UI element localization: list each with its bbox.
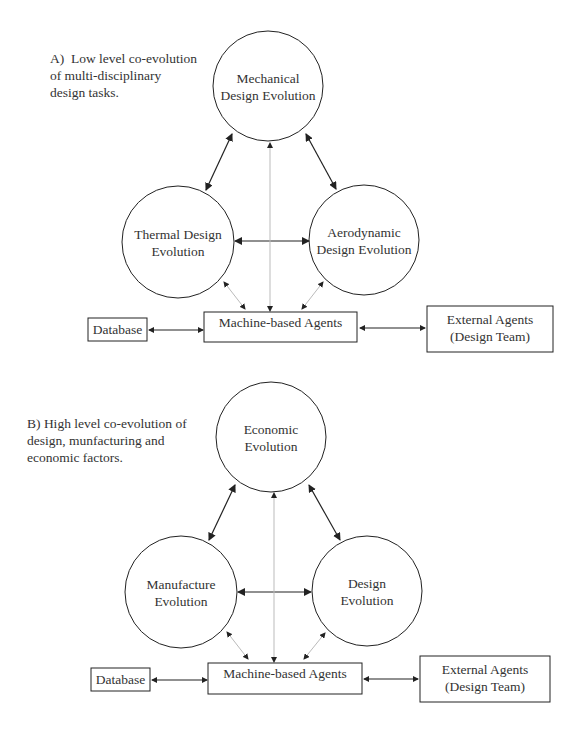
panel-a-caption: A) Low level co-evolution of multi-disci… [50,50,197,101]
arrow-mechanical-aerodynamic [306,134,336,189]
arrow-thermal-machine [224,282,245,309]
external-agents-label: External Agents (Design Team) [427,311,553,345]
panel-b-caption: B) High level co-evolution of design, mu… [27,415,187,466]
arrow-economic-design [309,485,340,540]
external-agents-label: External Agents (Design Team) [420,661,550,695]
design-node-label: Design Evolution [307,575,427,609]
diagram-canvas [0,0,585,730]
arrow-design-machine [304,633,325,659]
manufacture-node-label: Manufacture Evolution [121,576,241,610]
machine-agents-label: Machine-based Agents [204,314,357,331]
arrow-economic-manufacture [209,485,235,540]
thermal-node-label: Thermal Design Evolution [118,226,238,260]
arrow-mechanical-thermal [206,134,232,190]
machine-agents-label: Machine-based Agents [208,665,362,682]
economic-node-label: Economic Evolution [211,421,331,455]
database-label: Database [88,321,147,338]
arrow-manufacture-machine [227,632,248,659]
database-label: Database [91,671,150,688]
mechanical-node-label: Mechanical Design Evolution [208,70,328,104]
aerodynamic-node-label: Aerodynamic Design Evolution [304,224,424,258]
arrow-aerodynamic-machine [302,282,323,309]
